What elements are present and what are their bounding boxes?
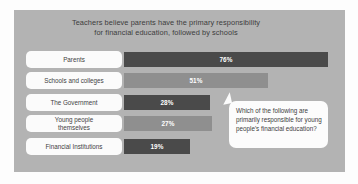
- category-label-pill: Schools and colleges: [26, 72, 122, 89]
- category-label: Financial Institutions: [45, 143, 102, 150]
- bar-value-label: 76%: [219, 56, 232, 63]
- bar-rows: Parents 76% Schools and colleges 51% The…: [0, 0, 358, 184]
- bar-value-label: 51%: [189, 77, 202, 84]
- bar-financial-institutions: 19%: [124, 139, 190, 154]
- bar-the-government: 28%: [124, 95, 210, 110]
- bar-value-label: 28%: [160, 99, 173, 106]
- category-label-pill: The Government: [26, 94, 122, 111]
- bar-value-label: 19%: [150, 143, 163, 150]
- category-label: The Government: [50, 99, 97, 106]
- infographic-chart: Teachers believe parents have the primar…: [0, 0, 358, 184]
- bar-schools-and-colleges: 51%: [124, 73, 268, 88]
- callout-question-text: Which of the following are primarily res…: [236, 106, 324, 133]
- category-label-pill: Parents: [26, 51, 122, 68]
- category-label: Young people themselves: [55, 116, 93, 131]
- bar-value-label: 27%: [161, 120, 174, 127]
- bar-young-people-themselves: 27%: [124, 116, 212, 131]
- category-label: Schools and colleges: [44, 77, 104, 84]
- category-label-pill: Financial Institutions: [26, 138, 122, 155]
- category-label-pill: Young people themselves: [26, 115, 122, 132]
- bar-parents: 76%: [124, 52, 328, 67]
- category-label: Parents: [63, 56, 85, 63]
